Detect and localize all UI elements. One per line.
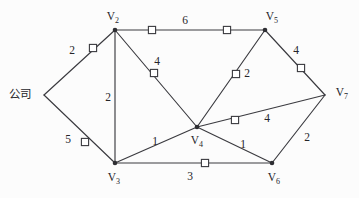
edge-v2-v4 [115,30,197,127]
vertex-dot-v6 [270,161,275,166]
edge-weight-v4-v5: 2 [244,68,250,80]
edge-weight-v3-v4: 1 [152,136,158,148]
edge-company-v3 [44,95,115,163]
node-label-v4: V4 [191,135,204,147]
edge-weight-v6-v7: 2 [304,132,310,144]
node-label-v2: V2 [107,11,120,23]
node-label-subscript-v3: 3 [116,177,120,186]
node-label-subscript-v6: 6 [276,177,280,186]
edge-weight-v2-v3: 2 [105,92,111,104]
edge-marker-company-v2-0 [89,44,96,51]
edge-marker-v5-v7-0 [297,64,304,71]
vertex-dot-v5 [263,28,268,33]
node-label-subscript-v4: 4 [199,140,203,149]
edge-marker-v4-v7-0 [231,116,238,123]
edge-weight-v4-v6: 1 [240,139,246,151]
node-label-subscript-v7: 7 [344,92,348,101]
edge-marker-v2-v4-0 [150,69,157,76]
vertex-dot-v4 [195,125,200,130]
node-label-subscript-v5: 5 [274,16,278,25]
vertex-dot-v3 [113,161,118,166]
node-label-v5: V5 [266,11,279,23]
diagram-canvas: 256242441132公司V2V3V4V5V6V7 [0,0,359,198]
edge-v4-v6 [197,127,272,163]
edge-weight-v5-v7: 4 [293,45,299,57]
edge-weight-v4-v7: 4 [264,113,270,125]
edge-marker-company-v3-0 [81,138,88,145]
edge-v6-v7 [272,95,325,163]
edge-marker-v2-v5-1 [223,26,230,33]
edge-company-v2 [44,30,115,95]
edge-weight-v3-v6: 3 [187,171,193,183]
node-label-v7: V7 [336,87,349,99]
node-label-company: 公司 [9,89,32,101]
node-label-v3: V3 [108,172,121,184]
node-label-v6: V6 [268,172,281,184]
edge-marker-v2-v5-0 [148,26,155,33]
edge-marker-v3-v6-0 [201,159,208,166]
vertex-dot-v2 [113,28,118,33]
graph-svg [0,0,359,198]
edge-marker-v4-v5-0 [232,70,239,77]
node-label-subscript-v2: 2 [115,16,119,25]
edge-weight-v2-v4: 4 [154,56,160,68]
edge-v5-v7 [265,30,325,95]
edge-weight-v2-v5: 6 [182,15,188,27]
edge-weight-company-v2: 2 [69,45,75,57]
edge-weight-company-v3: 5 [65,134,71,146]
